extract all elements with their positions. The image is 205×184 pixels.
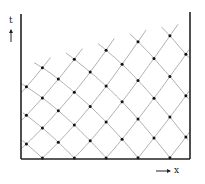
mesh-node (105, 85, 108, 88)
mesh-node (25, 114, 28, 117)
x-axis-label: x (174, 166, 179, 175)
mesh-node (184, 53, 187, 56)
mesh-node (25, 85, 28, 88)
characteristic-line (169, 132, 190, 159)
mesh-node (57, 141, 60, 144)
x-axis-arrow-icon (156, 169, 171, 173)
t-axis-label: t (9, 16, 13, 25)
mesh-node (89, 71, 92, 74)
mesh-node (153, 57, 156, 60)
mesh-node (121, 138, 124, 141)
characteristic-line (73, 24, 178, 159)
characteristic-line (137, 91, 189, 159)
mesh-node (137, 40, 140, 43)
mesh-node (184, 94, 187, 97)
mesh-nodes (25, 34, 188, 159)
mesh-node (73, 58, 76, 61)
mesh-node (168, 34, 171, 37)
mesh-node (25, 142, 28, 145)
characteristics-diagram (0, 0, 205, 184)
mesh-node (73, 124, 76, 127)
mesh-node (153, 97, 156, 100)
mesh-node (105, 121, 108, 124)
mesh-node (41, 127, 44, 130)
characteristic-mesh (21, 24, 190, 159)
mesh-node (89, 139, 92, 142)
mesh-node (137, 79, 140, 82)
mesh-node (73, 91, 76, 94)
mesh-node (184, 136, 187, 139)
characteristic-line (105, 50, 189, 159)
mesh-node (121, 100, 124, 103)
mesh-node (168, 75, 171, 78)
mesh-node (137, 118, 140, 121)
mesh-node (105, 49, 108, 52)
mesh-node (121, 63, 124, 66)
mesh-node (89, 105, 92, 108)
characteristic-line (130, 34, 189, 99)
t-axis-arrow-icon (9, 29, 13, 42)
mesh-node (57, 78, 60, 81)
mesh-node (41, 96, 44, 99)
mesh-node (153, 136, 156, 139)
characteristic-line (41, 30, 146, 159)
mesh-node (168, 116, 171, 119)
mesh-node (57, 109, 60, 112)
mesh-node (41, 66, 44, 69)
